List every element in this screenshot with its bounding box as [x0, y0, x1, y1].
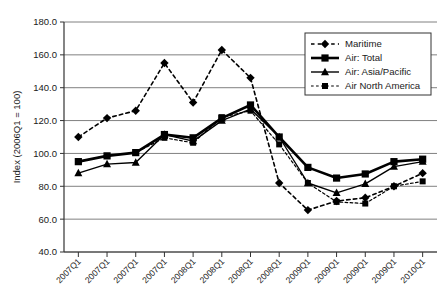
y-axis-tick-label: 40.0 — [39, 246, 58, 257]
data-point — [391, 183, 397, 189]
line-chart: 40.060.080.0100.0120.0140.0160.0180.0Ind… — [0, 0, 447, 302]
data-point — [190, 140, 196, 146]
data-point — [248, 108, 254, 114]
x-axis-tick-label: 2007Q1 — [111, 256, 140, 285]
data-point — [362, 170, 369, 177]
legend-label: Air North America — [345, 80, 421, 91]
chart-figure: 40.060.080.0100.0120.0140.0160.0180.0Ind… — [0, 0, 447, 302]
data-point — [333, 174, 340, 181]
x-axis-tick-label: 2009Q1 — [312, 256, 341, 285]
y-axis: 40.060.080.0100.0120.0140.0160.0180.0 — [33, 16, 64, 257]
y-axis-tick-label: 160.0 — [33, 49, 57, 60]
y-axis-title: Index (2006Q1 = 100) — [11, 91, 22, 184]
data-point — [276, 141, 282, 147]
x-axis: 2007Q12007Q12007Q12007Q12008Q12008Q12008… — [54, 252, 437, 285]
data-point — [305, 180, 311, 186]
y-axis-tick-label: 80.0 — [39, 181, 58, 192]
x-axis-tick-label: 2007Q1 — [140, 256, 169, 285]
data-point — [74, 133, 82, 141]
series-3 — [74, 105, 426, 196]
legend-label: Air: Asia/Pacific — [345, 66, 411, 77]
y-axis-tick-label: 180.0 — [33, 16, 57, 27]
data-point — [132, 107, 140, 115]
x-axis-tick-label: 2009Q1 — [370, 256, 399, 285]
legend-label: Maritime — [345, 38, 382, 49]
series-line — [78, 109, 422, 193]
y-axis-tick-label: 140.0 — [33, 82, 57, 93]
y-axis-tick-label: 120.0 — [33, 115, 57, 126]
x-axis-tick-label: 2008Q1 — [226, 256, 255, 285]
data-point — [420, 178, 426, 184]
data-point — [362, 201, 368, 207]
x-axis-tick-label: 2010Q1 — [398, 256, 427, 285]
x-axis-tick-label: 2008Q1 — [255, 256, 284, 285]
data-point — [334, 199, 340, 205]
data-point — [418, 169, 426, 177]
legend-sample-marker — [321, 54, 328, 61]
x-axis-tick-label: 2007Q1 — [54, 256, 83, 285]
legend-sample-marker — [322, 83, 328, 89]
legend-label: Air: Total — [345, 52, 382, 63]
series-line — [78, 111, 422, 204]
data-point — [75, 159, 81, 165]
data-point — [361, 180, 369, 188]
series-4 — [75, 108, 425, 207]
data-point — [219, 114, 225, 120]
x-axis-tick-label: 2009Q1 — [284, 256, 313, 285]
data-point — [104, 153, 110, 159]
x-axis-tick-label: 2008Q1 — [198, 256, 227, 285]
y-axis-tick-label: 60.0 — [39, 214, 58, 225]
chart-legend: MaritimeAir: TotalAir: Asia/PacificAir N… — [305, 33, 431, 95]
data-point — [133, 150, 139, 156]
x-axis-tick-label: 2009Q1 — [341, 256, 370, 285]
x-axis-tick-label: 2007Q1 — [83, 256, 112, 285]
x-axis-tick-label: 2008Q1 — [169, 256, 198, 285]
y-axis-tick-label: 100.0 — [33, 148, 57, 159]
series-line — [78, 105, 422, 178]
data-point — [161, 135, 167, 141]
data-point — [304, 164, 311, 171]
